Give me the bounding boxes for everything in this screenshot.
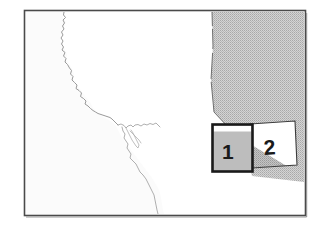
figure-root: 1 2: [0, 0, 325, 235]
study-box-1-label: 1: [222, 141, 234, 162]
map-figure: [0, 0, 325, 235]
study-box-2-label: 2: [263, 136, 276, 158]
study-box-1-top-band: [214, 126, 252, 132]
